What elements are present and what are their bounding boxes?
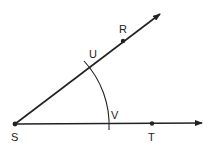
- point-s: [13, 122, 18, 127]
- label-r: R: [119, 23, 127, 35]
- ray-st: [15, 123, 202, 124]
- ray-sr: [15, 14, 160, 124]
- point-t: [150, 121, 154, 125]
- label-u: U: [89, 48, 97, 60]
- label-s: S: [11, 131, 18, 143]
- arc-uv: [84, 61, 109, 130]
- angle-diagram: S R U V T: [0, 0, 215, 146]
- label-t: T: [148, 131, 155, 143]
- label-v: V: [111, 109, 119, 121]
- point-r: [121, 39, 125, 43]
